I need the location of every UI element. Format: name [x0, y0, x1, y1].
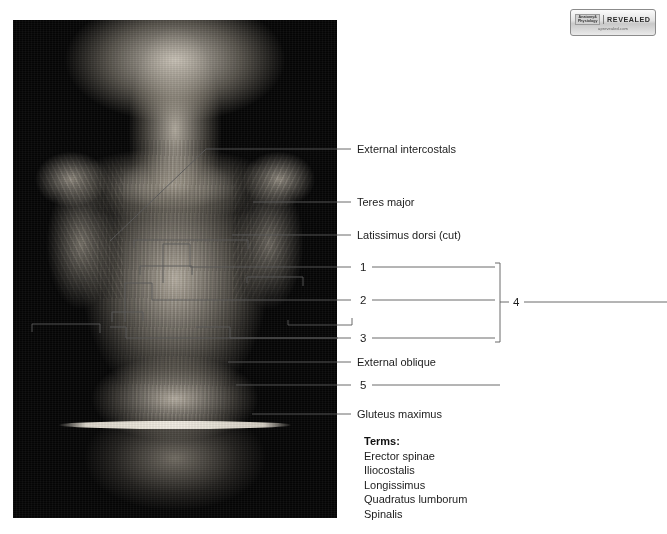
logo-ap-line2: Physiology — [578, 20, 598, 24]
label-external-intercostals: External intercostals — [357, 143, 456, 156]
label-teres-major: Teres major — [357, 196, 414, 209]
anatomy-photograph — [13, 20, 337, 518]
label-gluteus-maximus: Gluteus maximus — [357, 408, 442, 421]
term-item: Erector spinae — [364, 449, 467, 464]
logo-url: aprevealed.com — [598, 26, 628, 31]
logo-anatomy-physiology: Anatomy& Physiology — [575, 14, 600, 25]
numbered-label-3: 3 — [360, 332, 366, 345]
label-latissimus-dorsi-cut: Latissimus dorsi (cut) — [357, 229, 461, 242]
terms-block: Terms: Erector spinae Iliocostalis Longi… — [364, 434, 467, 522]
logo-divider-icon — [603, 15, 604, 24]
logo-revealed-wordmark: REVEALED — [607, 16, 651, 24]
numbered-label-4: 4 — [513, 296, 519, 309]
brand-logo: Anatomy& Physiology REVEALED aprevealed.… — [570, 9, 656, 36]
numbered-label-1: 1 — [360, 261, 366, 274]
term-item: Quadratus lumborum — [364, 492, 467, 507]
label-external-oblique: External oblique — [357, 356, 436, 369]
numbered-label-2: 2 — [360, 294, 366, 307]
bracket-num4 — [495, 263, 500, 342]
logo-row: Anatomy& Physiology REVEALED — [575, 14, 650, 25]
term-item: Iliocostalis — [364, 463, 467, 478]
photo-grain-texture — [13, 20, 337, 518]
term-item: Longissimus — [364, 478, 467, 493]
term-item: Spinalis — [364, 507, 467, 522]
numbered-label-5: 5 — [360, 379, 366, 392]
terms-heading: Terms: — [364, 434, 467, 449]
